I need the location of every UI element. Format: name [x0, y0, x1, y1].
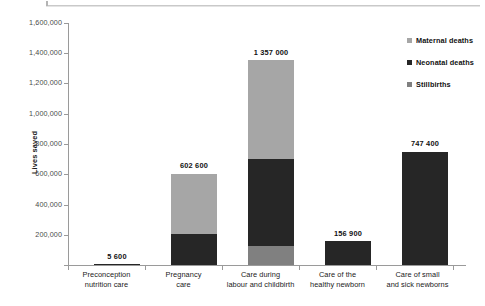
legend-label: Neonatal deaths [416, 58, 474, 67]
y-tick-label: 200,000 [8, 231, 62, 239]
y-tick-400000: 400,000 [0, 201, 62, 209]
segment-neonatal-deaths [171, 234, 217, 265]
bar-stack [171, 174, 217, 265]
bar-group-care-of-the-healthy-newborn[interactable]: 156 900 [325, 23, 371, 265]
x-label-line-1: Care of small [375, 270, 460, 280]
bar-value-label: 747 400 [388, 139, 462, 148]
segment-neonatal-deaths [248, 159, 294, 246]
bar-group-pregnancy-care[interactable]: 602 600 [171, 23, 217, 265]
segment-stillbirths [248, 246, 294, 265]
x-label-line-1: Preconception [67, 270, 146, 280]
x-axis-category-labels: Preconception nutrition care Pregnancy c… [68, 270, 466, 296]
x-label-line-1: Care of the [298, 270, 377, 280]
x-label-line-2: labour and childbirth [221, 280, 300, 290]
x-label-line-2: healthy newborn [298, 280, 377, 290]
chart-legend: Maternal deaths Neonatal deaths Stillbir… [407, 36, 485, 102]
bar-value-label: 1 357 000 [234, 48, 308, 57]
legend-item-maternal-deaths[interactable]: Maternal deaths [407, 36, 485, 44]
legend-label: Stillbirths [416, 80, 451, 89]
bar-stack [402, 152, 448, 265]
bar-stack [325, 241, 371, 265]
x-label-line-2: care [144, 280, 223, 290]
bar-value-label: 602 600 [157, 161, 231, 170]
legend-swatch-icon [407, 60, 412, 65]
x-label-line-1: Care during [221, 270, 300, 280]
bar-group-preconception-nutrition-care[interactable]: 5 600 [94, 23, 140, 265]
segment-neonatal-deaths [325, 241, 371, 265]
segment-maternal-deaths [248, 60, 294, 159]
y-tick-600000: 600,000 [0, 170, 62, 178]
x-label-line-2: nutrition care [67, 280, 146, 290]
x-label-pregnancy-care: Pregnancy care [144, 270, 223, 290]
bar-value-label: 5 600 [80, 252, 154, 261]
legend-label: Maternal deaths [416, 36, 473, 45]
legend-swatch-icon [407, 82, 412, 87]
legend-item-stillbirths[interactable]: Stillbirths [407, 80, 485, 88]
bar-value-label: 156 900 [311, 229, 385, 238]
x-label-care-of-the-healthy-newborn: Care of the healthy newborn [298, 270, 377, 290]
y-tick-800000: 800,000 [0, 140, 62, 148]
x-label-line-1: Pregnancy [144, 270, 223, 280]
bar-stack [248, 60, 294, 265]
x-label-care-during-labour-and-childbirth: Care during labour and childbirth [221, 270, 300, 290]
segment-maternal-deaths [171, 174, 217, 235]
stacked-bar-chart: Lives saved 1,600,000 1,400,000 1,200,00… [0, 0, 485, 306]
y-tick-1000000: 1,000,000 [0, 110, 62, 118]
bar-group-care-during-labour-and-childbirth[interactable]: 1 357 000 [248, 23, 294, 265]
y-tick-1400000: 1,400,000 [0, 49, 62, 57]
y-tick-label: 1,000,000 [8, 110, 62, 118]
x-label-line-2: and sick newborns [375, 280, 460, 290]
x-label-preconception-nutrition-care: Preconception nutrition care [67, 270, 146, 290]
bar-stack [94, 264, 140, 266]
segment-neonatal-deaths [402, 152, 448, 265]
y-tick-label: 600,000 [8, 170, 62, 178]
y-tick-1200000: 1,200,000 [0, 79, 62, 87]
legend-item-neonatal-deaths[interactable]: Neonatal deaths [407, 58, 485, 66]
header-divider-shadow [46, 6, 480, 7]
y-tick-label: 1,200,000 [8, 79, 62, 87]
y-tick-200000: 200,000 [0, 231, 62, 239]
segment-neonatal-deaths [94, 264, 140, 266]
x-label-care-of-small-and-sick-newborns: Care of small and sick newborns [375, 270, 460, 290]
y-tick-label: 400,000 [8, 201, 62, 209]
x-axis-line [68, 265, 466, 266]
y-tick-label: 800,000 [8, 140, 62, 148]
y-tick-label: 1,400,000 [8, 49, 62, 57]
y-tick-1600000: 1,600,000 [0, 19, 62, 27]
header-tick-mark [46, 1, 48, 6]
legend-swatch-icon [407, 38, 412, 43]
y-tick-label: 1,600,000 [8, 19, 62, 27]
